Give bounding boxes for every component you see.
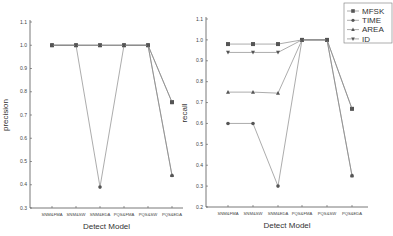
chart-canvas: 0.30.40.50.60.70.80.91.01.1SNM&FMASNM&SW… bbox=[0, 0, 393, 236]
recall-chart: 0.20.30.40.50.60.70.80.91.01.1SNM&FMASNM… bbox=[180, 16, 368, 230]
y-tick-label: 1.1 bbox=[196, 16, 203, 22]
series-time bbox=[50, 43, 174, 188]
y-tick-label: 0.9 bbox=[196, 57, 203, 63]
y-tick-label: 1.0 bbox=[196, 37, 203, 43]
y-tick-label: 0.8 bbox=[196, 78, 203, 84]
legend-label: TIME bbox=[362, 16, 381, 25]
series-mfsk bbox=[226, 38, 354, 111]
x-tick-label: PQS&SW bbox=[139, 212, 157, 217]
y-tick-label: 0.9 bbox=[20, 65, 27, 71]
legend: MFSKTIMEAREAID bbox=[344, 3, 392, 44]
precision-chart: 0.30.40.50.60.70.80.91.01.1SNM&FMASNM&SW… bbox=[1, 19, 183, 231]
y-tick-label: 0.3 bbox=[20, 205, 27, 211]
y-tick-label: 0.8 bbox=[20, 88, 27, 94]
y-tick-label: 0.5 bbox=[196, 141, 203, 147]
y-tick-label: 0.7 bbox=[20, 112, 27, 118]
y-axis-title: precision bbox=[1, 99, 10, 131]
x-axis-title: Detect Model bbox=[83, 222, 130, 231]
x-tick-label: SNM&EDA bbox=[90, 212, 111, 217]
square-marker bbox=[251, 42, 255, 46]
series-id bbox=[226, 38, 354, 111]
y-tick-label: 0.5 bbox=[20, 158, 27, 164]
circle-marker bbox=[98, 185, 102, 189]
circle-marker bbox=[276, 184, 280, 188]
series-mfsk bbox=[50, 43, 174, 104]
y-tick-label: 0.2 bbox=[196, 204, 203, 210]
x-tick-label: SNM&FMA bbox=[42, 212, 63, 217]
square-marker bbox=[276, 42, 280, 46]
square-marker bbox=[351, 9, 355, 13]
circle-marker bbox=[251, 122, 255, 126]
series-area bbox=[226, 38, 354, 178]
x-axis-title: Detect Model bbox=[263, 221, 310, 230]
y-axis-title: recall bbox=[180, 103, 189, 122]
y-tick-label: 0.7 bbox=[196, 99, 203, 105]
y-tick-label: 0.3 bbox=[196, 183, 203, 189]
legend-label: AREA bbox=[362, 25, 384, 34]
x-tick-label: SNM&SW bbox=[67, 212, 86, 217]
circle-marker bbox=[226, 122, 230, 126]
y-tick-label: 1.0 bbox=[20, 42, 27, 48]
square-marker bbox=[226, 42, 230, 46]
y-tick-label: 1.1 bbox=[20, 19, 27, 25]
x-tick-label: PQS&FMA bbox=[292, 211, 313, 216]
x-tick-label: PQS&FMA bbox=[114, 212, 135, 217]
x-tick-label: SNM&EDA bbox=[268, 211, 289, 216]
x-tick-label: SNM&SW bbox=[244, 211, 263, 216]
circle-marker bbox=[351, 19, 354, 22]
x-tick-label: PQS&EDA bbox=[162, 212, 182, 217]
legend-label: ID bbox=[362, 35, 370, 44]
y-tick-label: 0.6 bbox=[196, 120, 203, 126]
x-tick-label: PQS&EDA bbox=[342, 211, 362, 216]
y-tick-label: 0.4 bbox=[196, 162, 203, 168]
x-tick-label: SNM&FMA bbox=[218, 211, 239, 216]
y-tick-label: 0.4 bbox=[20, 181, 27, 187]
x-tick-label: PQS&SW bbox=[318, 211, 336, 216]
series-id bbox=[50, 44, 174, 105]
y-tick-label: 0.6 bbox=[20, 135, 27, 141]
legend-label: MFSK bbox=[362, 7, 385, 16]
